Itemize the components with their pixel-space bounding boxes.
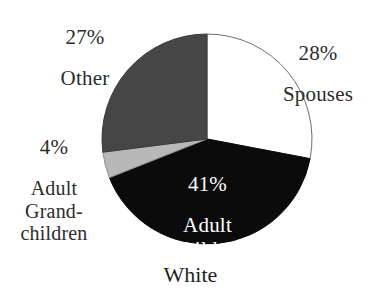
pie-label-adult-children-category: Adult Children (140, 214, 275, 261)
pie-label-adult-children: 41% Adult Children (140, 155, 275, 279)
pie-label-spouses-percent: 28% (258, 42, 378, 66)
pie-label-adult-grandchildren: 4% Adult Grand- children (2, 118, 106, 262)
pie-label-other-category: Other (18, 67, 152, 91)
pie-label-adult-children-percent: 41% (140, 173, 275, 197)
pie-label-spouses-category: Spouses (258, 83, 378, 107)
pie-label-adult-grandchildren-percent: 4% (2, 136, 106, 160)
chart-caption: White (0, 262, 381, 288)
pie-label-other: 27% Other (18, 8, 152, 109)
pie-chart: 27% Other 28% Spouses 4% Adult Grand- ch… (0, 0, 381, 298)
pie-label-adult-grandchildren-category: Adult Grand- children (2, 177, 106, 244)
pie-label-spouses: 28% Spouses (258, 24, 378, 125)
pie-label-other-percent: 27% (18, 26, 152, 50)
